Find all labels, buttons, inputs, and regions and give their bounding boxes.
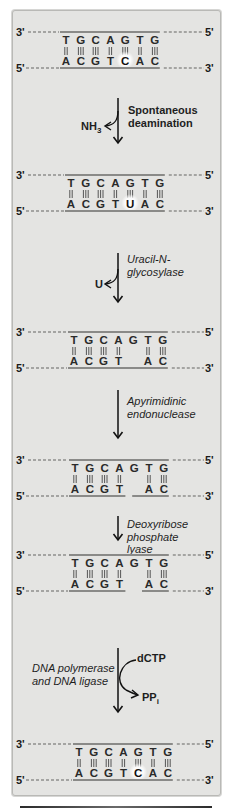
top-strand-5prime-label: 5': [205, 169, 214, 181]
enzyme-label: Apyrimidinic: [126, 395, 187, 407]
bottom-base: A: [71, 578, 79, 590]
top-strand-3prime-label: 3': [16, 454, 25, 466]
top-strand-5prime-label: 5': [205, 454, 214, 466]
top-base: G: [85, 557, 94, 569]
bottom-base: A: [67, 198, 75, 210]
bottom-base: A: [145, 578, 153, 590]
enzyme-label: glycosylase: [127, 266, 184, 278]
top-base: A: [106, 34, 114, 46]
bottom-rule: [20, 806, 212, 808]
duplex-deaminated: 3'5'TAGCCGATGUTAGC5'3': [16, 169, 214, 217]
bottom-base: C: [156, 198, 164, 210]
enzyme-label: lyase: [127, 543, 153, 555]
bottom-base: A: [136, 55, 144, 67]
top-base: G: [130, 557, 139, 569]
top-base: C: [100, 462, 108, 474]
enzyme-label: and DNA ligase: [32, 675, 108, 687]
bottom-base: T: [120, 767, 127, 779]
bottom-base: T: [112, 198, 119, 210]
reaction-step-3: Apyrimidinicendonuclease: [114, 390, 196, 438]
bottom-strand-3prime-label: 3': [205, 490, 214, 502]
bottom-strand-3prime-label: 3': [205, 362, 214, 374]
bottom-base: A: [71, 483, 79, 495]
top-strand-3prime-label: 3': [16, 738, 25, 750]
substrate-in-curve: [120, 660, 136, 690]
top-strand-5prime-label: 5': [205, 26, 214, 38]
top-base: T: [62, 34, 69, 46]
bottom-strand-3prime-label: 3': [205, 774, 214, 786]
bottom-strand-5prime-label: 5': [16, 490, 25, 502]
bottom-base: C: [77, 55, 85, 67]
top-base: G: [155, 177, 164, 189]
top-base: C: [91, 34, 99, 46]
top-base: C: [99, 334, 107, 346]
duplex-abasic: 3'5'TAGCCGATGTAGC5'3': [16, 326, 214, 374]
top-base: T: [145, 462, 152, 474]
top-base: T: [70, 334, 77, 346]
base-excision-repair-diagram: SpontaneousdeaminationNH3Uracil-N-glycos…: [0, 0, 230, 812]
bottom-strand-5prime-label: 5': [16, 774, 25, 786]
enzyme-label: Uracil-N-: [127, 253, 171, 265]
enzyme-label: DNA polymerase: [32, 662, 115, 674]
top-base: T: [67, 177, 74, 189]
bottom-base: G: [99, 355, 108, 367]
top-base: G: [163, 746, 172, 758]
bottom-strand-5prime-label: 5': [16, 62, 25, 74]
duplex-original: 3'5'TAGCCGATGCTAGC5'3': [16, 26, 214, 74]
top-base: G: [159, 462, 168, 474]
top-base: G: [150, 34, 159, 46]
bottom-strand-5prime-label: 5': [16, 585, 25, 597]
bottom-base: C: [86, 578, 94, 590]
top-base: A: [119, 746, 127, 758]
top-base: G: [130, 462, 139, 474]
bottom-base: C: [160, 578, 168, 590]
enzyme-label: Spontaneous: [128, 104, 198, 116]
top-base: G: [134, 746, 143, 758]
top-base: T: [71, 462, 78, 474]
enzyme-label: deamination: [128, 117, 193, 129]
top-base: A: [114, 334, 122, 346]
top-base: A: [115, 557, 123, 569]
bottom-base: G: [100, 483, 109, 495]
top-base: G: [84, 334, 93, 346]
bottom-base: C: [164, 767, 172, 779]
highlighted-base: C: [121, 55, 129, 67]
bottom-base: A: [70, 355, 78, 367]
top-base: G: [126, 177, 135, 189]
top-base: C: [96, 177, 104, 189]
top-base: T: [141, 177, 148, 189]
bottom-base: C: [86, 483, 94, 495]
bottom-base: G: [100, 578, 109, 590]
top-base: A: [111, 177, 119, 189]
duplex-repaired: 3'5'TAGCCGATGCTAGC5'3': [16, 738, 214, 786]
highlighted-base: C: [134, 767, 142, 779]
bottom-base: C: [151, 55, 159, 67]
top-strand-5prime-label: 5': [205, 738, 214, 750]
top-base: T: [136, 34, 143, 46]
bottom-base: A: [141, 198, 149, 210]
duplex-gapped: 3'5'TAGCCGATGTAGC5'3': [16, 549, 214, 597]
top-base: C: [100, 557, 108, 569]
reaction-step-1: SpontaneousdeaminationNH3: [81, 98, 198, 143]
top-base: G: [129, 334, 138, 346]
enzyme-label: Deoxyribose: [127, 518, 188, 530]
top-strand-5prime-label: 5': [205, 326, 214, 338]
top-base: G: [89, 746, 98, 758]
top-strand-3prime-label: 3': [16, 326, 25, 338]
reaction-step-4: Deoxyribosephosphatelyase: [114, 516, 189, 555]
top-base: T: [149, 746, 156, 758]
highlighted-base: U: [126, 198, 134, 210]
bottom-base: A: [149, 767, 157, 779]
top-base: C: [104, 746, 112, 758]
top-base: A: [115, 462, 123, 474]
top-base: G: [158, 334, 167, 346]
bottom-base: C: [159, 355, 167, 367]
product-ppi: PPi: [142, 691, 159, 706]
bottom-strand-5prime-label: 5': [16, 362, 25, 374]
enzyme-label: endonuclease: [127, 408, 196, 420]
reaction-step-2: Uracil-N-glycosylaseU: [95, 253, 184, 302]
bottom-base: A: [144, 355, 152, 367]
top-base: G: [159, 557, 168, 569]
substrate-dctp: dCTP: [137, 652, 166, 664]
bottom-base: T: [116, 578, 123, 590]
